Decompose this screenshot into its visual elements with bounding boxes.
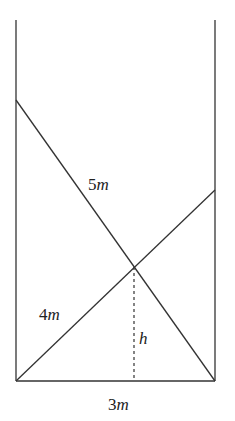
label-ladder-short: 4m (39, 306, 60, 323)
ladder-long (16, 100, 215, 381)
label-ladder-long: 5m (88, 176, 109, 193)
label-width: 3m (108, 396, 129, 413)
label-height: h (139, 330, 148, 347)
crossed-ladders-diagram (0, 0, 235, 421)
ladder-short (16, 190, 215, 381)
